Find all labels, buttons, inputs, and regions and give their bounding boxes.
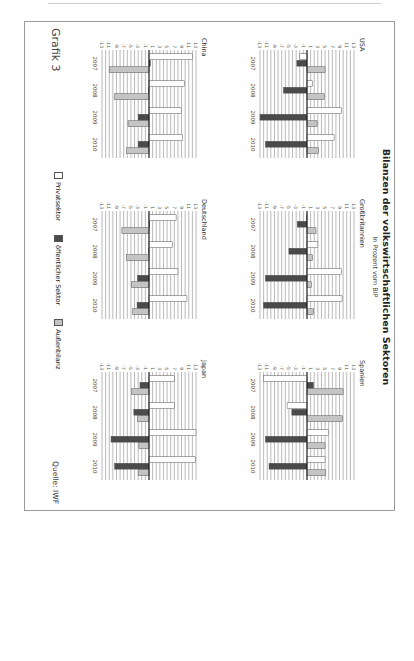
y-tick-label: 1 [150,367,155,370]
bar-öffentlicher-sektor [269,463,307,469]
bar-außenbilanz [126,255,149,261]
y-tick-label: 7 [330,206,335,209]
panel-usa: USA 131197531-1-3-5-7-9-11-1320072008200… [244,36,366,160]
y-tick-label: 7 [330,45,335,48]
panel-japan: Japan 131197531-1-3-5-7-9-11-13200720082… [86,358,208,482]
y-tick-label: -1 [143,205,148,210]
panel-label: Japan [200,360,208,378]
y-tick-label: 9 [179,206,184,209]
x-tick-label: 2010 [92,460,98,474]
x-tick-label: 2009 [250,272,256,286]
legend-item-oeffentlicher-sektor: öffentlicher Sektor [54,235,63,305]
legend: Privatsektor öffentlicher Sektor Außenbi… [54,172,63,369]
x-tick-label: 2010 [92,138,98,152]
bar-öffentlicher-sektor [137,275,149,281]
chart-title: Bilanzen der volkswirtschaftlichen Sekto… [381,22,392,512]
panel-chart: 131197531-1-3-5-7-9-11-13200720082009201… [244,358,356,482]
bar-außenbilanz [137,416,149,422]
chart-subtitle: In Prozent vom BIP [371,22,379,512]
y-tick-label: 7 [330,367,335,370]
y-tick-label: -1 [301,44,306,49]
bar-öffentlicher-sektor [265,141,307,147]
y-tick-label: -13 [99,363,104,370]
x-tick-label: 2007 [250,57,256,71]
y-tick-label: -9 [272,44,277,49]
panel-chart: 131197531-1-3-5-7-9-11-13200720082009201… [244,197,356,321]
y-tick-label: -5 [286,366,291,371]
y-tick-label: 3 [157,367,162,370]
figure-frame: Bilanzen der volkswirtschaftlichen Sekto… [24,21,395,511]
y-tick-label: -7 [279,205,284,210]
panel-label: Großbritannien [358,199,366,248]
bar-öffentlicher-sektor [292,409,307,415]
y-tick-label: -3 [135,44,140,49]
y-tick-label: -13 [99,202,104,209]
bar-außenbilanz [307,67,325,73]
bar-privatsektor [149,108,182,114]
panel-china: China 131197531-1-3-5-7-9-11-13200720082… [86,36,208,160]
y-tick-label: 1 [308,367,313,370]
bar-öffentlicher-sektor [307,382,314,388]
y-tick-label: 11 [344,42,349,48]
y-tick-label: 5 [164,206,169,209]
bar-privatsektor [287,403,307,409]
bar-außenbilanz [307,255,312,261]
bar-öffentlicher-sektor [115,463,149,469]
panel-chart: 131197531-1-3-5-7-9-11-13200720082009201… [86,197,198,321]
bar-außenbilanz [307,470,326,476]
y-tick-label: -1 [143,44,148,49]
y-tick-label: 9 [337,367,342,370]
y-tick-label: 11 [186,42,191,48]
x-tick-label: 2009 [250,111,256,125]
y-tick-label: -5 [128,366,133,371]
y-tick-label: -3 [293,205,298,210]
y-tick-label: -11 [106,202,111,209]
y-tick-label: 3 [315,367,320,370]
y-tick-label: 11 [186,203,191,209]
bar-öffentlicher-sektor [297,221,307,227]
bar-privatsektor [149,376,174,382]
y-tick-label: 5 [322,45,327,48]
bar-außenbilanz [307,416,342,422]
bar-privatsektor [149,430,196,436]
y-tick-label: 11 [344,203,349,209]
y-tick-label: 5 [322,206,327,209]
x-tick-label: 2009 [92,433,98,447]
bar-öffentlicher-sektor [284,87,308,93]
y-tick-label: 1 [308,45,313,48]
bar-außenbilanz [307,389,343,395]
x-tick-label: 2007 [250,379,256,393]
x-tick-label: 2010 [250,460,256,474]
y-tick-label: -1 [301,205,306,210]
y-tick-label: -5 [128,44,133,49]
bar-privatsektor [149,242,173,248]
y-tick-label: 5 [322,367,327,370]
y-tick-label: -3 [135,366,140,371]
y-tick-label: -7 [279,44,284,49]
source-note: Quelle: IWF [51,461,60,504]
bar-außenbilanz [307,94,324,100]
bar-privatsektor [149,135,182,141]
bar-außenbilanz [128,121,149,127]
y-tick-label: 7 [172,45,177,48]
bar-öffentlicher-sektor [297,60,307,66]
x-tick-label: 2008 [250,245,256,259]
bar-außenbilanz [307,148,319,154]
panel-spanien: Spanien 131197531-1-3-5-7-9-11-132007200… [244,358,366,482]
y-tick-label: -3 [293,44,298,49]
legend-swatch-oeffentlicher-sektor [54,235,63,242]
bar-außenbilanz [307,121,317,127]
bar-außenbilanz [307,282,311,288]
bar-öffentlicher-sektor [111,436,149,442]
bar-privatsektor [307,430,329,436]
y-tick-label: -13 [257,363,262,370]
y-tick-label: -9 [272,366,277,371]
y-tick-label: 7 [172,206,177,209]
legend-item-aussenbilanz: Außenbilanz [54,319,63,369]
bar-öffentlicher-sektor [138,114,149,120]
bar-privatsektor [149,269,178,275]
bar-öffentlicher-sektor [134,409,149,415]
x-tick-label: 2010 [250,299,256,313]
y-tick-label: -9 [272,205,277,210]
y-tick-label: 1 [308,206,313,209]
